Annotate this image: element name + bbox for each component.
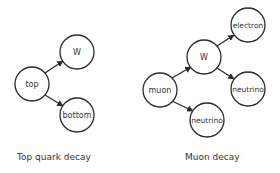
edge-w-to-neutrino — [217, 68, 234, 79]
node-neutrino-right: neutrino — [231, 72, 265, 106]
node-label: bottom — [63, 111, 92, 120]
top-quark-decay-diagram: top W bottom — [15, 35, 94, 132]
node-label: neutrino — [232, 85, 264, 94]
node-label: muon — [149, 86, 172, 95]
node-muon: muon — [143, 73, 177, 107]
edge-w-to-electron — [217, 35, 234, 46]
edge-top-to-w — [45, 61, 63, 73]
node-neutrino-bottom: neutrino — [190, 103, 224, 137]
node-label: W — [73, 48, 81, 57]
edge-top-to-bottom — [45, 95, 63, 106]
node-label: electron — [233, 21, 264, 30]
node-label: W — [200, 53, 208, 62]
node-electron: electron — [231, 8, 265, 42]
node-label: neutrino — [191, 116, 223, 125]
node-label: top — [25, 80, 38, 89]
node-w: W — [187, 40, 221, 74]
node-bottom: bottom — [60, 98, 94, 132]
node-top: top — [15, 67, 49, 101]
caption-muon-decay: Muon decay — [185, 152, 240, 162]
decay-diagrams: top W bottom muon W electron ne — [0, 0, 280, 173]
caption-top-quark-decay: Top quark decay — [17, 152, 91, 162]
muon-decay-diagram: muon W electron neutrino neutrino — [143, 8, 265, 137]
edge-muon-to-w — [172, 67, 191, 78]
edge-muon-to-neutrino — [172, 101, 193, 111]
node-w: W — [60, 35, 94, 69]
